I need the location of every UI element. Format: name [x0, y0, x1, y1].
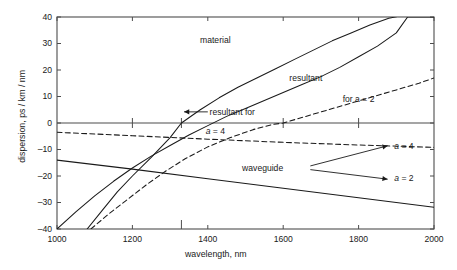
waveguide-a2-label: a = 2 — [394, 174, 457, 183]
y-tick-label-40: 40 — [24, 13, 52, 22]
y-tick-label-30: 30 — [24, 39, 52, 48]
for-a2-label: for a = 2 — [324, 95, 394, 104]
x-tick-label-1200: 1200 — [112, 235, 152, 244]
y-tick-label--10: –10 — [24, 145, 52, 154]
resultant-label: resultant — [271, 74, 341, 83]
waveguide-a4-leader — [310, 146, 387, 166]
waveguide-a2-leader-head — [382, 176, 387, 181]
waveguide-a2-leader — [310, 170, 387, 180]
y-axis-title: dispersion, ps / km / nm — [18, 56, 27, 176]
dispersion-chart-figure: dispersion, ps / km / nm wavelength, nm … — [0, 0, 457, 270]
resultant-for-label: resultant for — [210, 108, 280, 117]
x-tick-label-2000: 2000 — [414, 235, 454, 244]
a4-inline-label: a = 4 — [180, 127, 250, 136]
y-tick-label-0: 0 — [24, 119, 52, 128]
waveguide-a4-label: a = 4 — [394, 142, 457, 151]
y-tick-label--20: –20 — [24, 172, 52, 181]
y-tick-label--40: –40 — [24, 225, 52, 234]
x-tick-label-1800: 1800 — [339, 235, 379, 244]
x-tick-label-1600: 1600 — [263, 235, 303, 244]
waveguide-a4-leader-head — [382, 145, 388, 150]
series-line-resultant-for-a-4 — [87, 12, 424, 229]
y-tick-label-10: 10 — [24, 92, 52, 101]
x-axis-title: wavelength, nm — [185, 250, 247, 259]
y-tick-label-20: 20 — [24, 66, 52, 75]
resultant-for-leader-head — [184, 109, 189, 114]
x-tick-label-1400: 1400 — [188, 235, 228, 244]
y-tick-label--30: –30 — [24, 198, 52, 207]
waveguide-label: waveguide — [213, 164, 283, 173]
material-label: material — [180, 36, 250, 45]
x-tick-label-1000: 1000 — [37, 235, 77, 244]
